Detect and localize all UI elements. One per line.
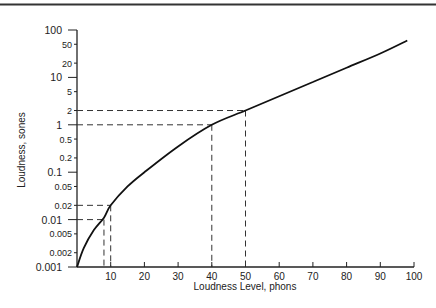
x-tick-label: 100	[406, 271, 423, 282]
y-tick-label: 0.2	[59, 153, 72, 163]
y-tick-label: 2	[67, 106, 72, 116]
y-tick-label: 0.005	[49, 229, 72, 239]
x-tick-label: 10	[105, 271, 117, 282]
y-tick-label: 1	[56, 119, 62, 131]
loudness-chart: 1020304050607080901001005020105210.50.20…	[0, 0, 436, 308]
y-tick-label: 0.1	[47, 166, 62, 178]
y-tick-label: 0.02	[54, 201, 72, 211]
y-tick-label: 0.001	[36, 261, 62, 273]
y-tick-label: 0.01	[42, 214, 63, 226]
y-tick-label: 0.5	[59, 135, 72, 145]
y-tick-label: 10	[50, 71, 62, 83]
loudness-curve	[77, 41, 407, 267]
x-tick-label: 70	[307, 271, 319, 282]
x-tick-label: 90	[375, 271, 387, 282]
y-axis-label: Loudness, sones	[16, 112, 27, 188]
x-tick-label: 20	[139, 271, 151, 282]
x-axis-label: Loudness Level, phons	[194, 281, 297, 292]
x-tick-label: 30	[173, 271, 185, 282]
y-tick-label: 20	[62, 59, 72, 69]
y-tick-label: 50	[62, 40, 72, 50]
axes: 1020304050607080901001005020105210.50.20…	[36, 24, 423, 282]
x-tick-label: 80	[341, 271, 353, 282]
y-tick-label: 100	[44, 24, 62, 36]
reference-lines	[77, 111, 246, 267]
y-tick-label: 5	[67, 87, 72, 97]
y-tick-label: 0.002	[49, 248, 72, 258]
y-tick-label: 0.05	[54, 182, 72, 192]
